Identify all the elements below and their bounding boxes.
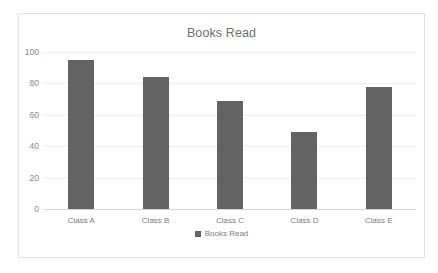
chart-container[interactable]: Books Read 100 80 60 40 20 0 Class A (18, 13, 425, 258)
bar-slot-class-d: Class D (267, 52, 341, 209)
ytick-label-80: 80 (30, 78, 39, 88)
bar-class-e[interactable] (366, 87, 392, 209)
bar-slot-class-e: Class E (342, 52, 416, 209)
bar-class-b[interactable] (143, 77, 169, 209)
legend-swatch-icon (195, 231, 201, 237)
bar-slot-class-a: Class A (44, 52, 118, 209)
plot-area: 100 80 60 40 20 0 Class A Class B (44, 52, 416, 209)
xtick-label-class-e: Class E (342, 216, 416, 225)
xtick-label-class-d: Class D (267, 216, 341, 225)
bar-class-c[interactable] (217, 101, 243, 209)
xtick-label-class-b: Class B (118, 216, 192, 225)
chart-legend[interactable]: Books Read (19, 229, 424, 238)
ytick-label-0: 0 (34, 204, 39, 214)
ytick-label-20: 20 (30, 173, 39, 183)
bars-layer: Class A Class B Class C Class D Class E (44, 52, 416, 209)
bar-slot-class-c: Class C (193, 52, 267, 209)
bar-slot-class-b: Class B (118, 52, 192, 209)
bar-class-d[interactable] (291, 132, 317, 209)
ytick-label-40: 40 (30, 141, 39, 151)
chart-title: Books Read (19, 26, 424, 40)
xtick-label-class-c: Class C (193, 216, 267, 225)
ytick-label-60: 60 (30, 110, 39, 120)
bar-class-a[interactable] (68, 60, 94, 209)
xtick-label-class-a: Class A (44, 216, 118, 225)
axis-baseline: 0 (44, 209, 416, 210)
ytick-label-100: 100 (25, 47, 39, 57)
legend-label-books-read: Books Read (205, 229, 249, 238)
